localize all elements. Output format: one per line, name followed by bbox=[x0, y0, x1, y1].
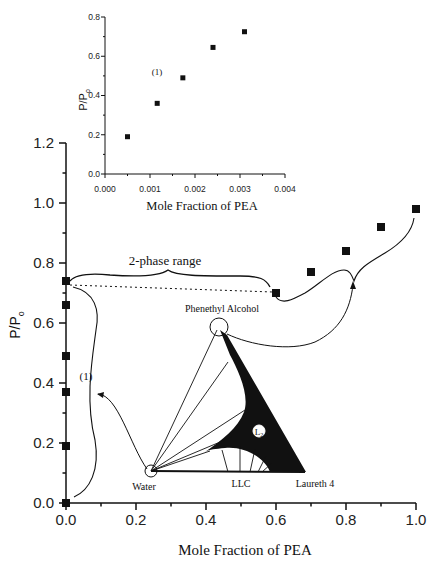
pea-vertex-label: Phenethyl Alcohol bbox=[185, 303, 259, 314]
y-tick-label: 1.2 bbox=[33, 134, 54, 151]
chart-canvas: 0.0000.0010.0020.0030.0040.00.20.40.60.8… bbox=[0, 0, 441, 570]
x-tick-label: 0.4 bbox=[196, 511, 217, 528]
main-x-axis-label: Mole Fraction of PEA bbox=[178, 542, 312, 558]
svg-text:P/Po: P/Po bbox=[7, 311, 26, 339]
inset-x-axis-label: Mole Fraction of PEA bbox=[146, 199, 257, 213]
high-pea-curve bbox=[276, 218, 414, 301]
inset-axes bbox=[101, 17, 285, 178]
laureth4-vertex-label: Laureth 4 bbox=[296, 478, 335, 489]
region-1-curve bbox=[73, 287, 97, 497]
y-tick-label: 0.0 bbox=[88, 169, 100, 179]
x-tick-label: 0.000 bbox=[94, 184, 116, 194]
arrowhead-icon bbox=[350, 281, 356, 289]
two-phase-brace bbox=[70, 270, 270, 287]
y-tick-label: 0.8 bbox=[88, 12, 100, 22]
inset-tick-labels: 0.0000.0010.0020.0030.0040.00.20.40.60.8 bbox=[88, 12, 296, 194]
x-tick-label: 0.003 bbox=[229, 184, 251, 194]
data-point-square bbox=[377, 223, 385, 231]
y-tick-label: 0.2 bbox=[88, 130, 100, 140]
main-y-axis-label: P/Po bbox=[7, 311, 26, 339]
main-region-1-label: (1) bbox=[80, 370, 93, 383]
y-tick-label: 0.8 bbox=[33, 254, 54, 271]
data-point-square bbox=[62, 499, 70, 507]
inset-region-1-label: (1) bbox=[152, 67, 163, 77]
inset-y-axis-label: P/Po bbox=[77, 89, 91, 111]
inset-data-points bbox=[125, 29, 247, 139]
l2-region bbox=[205, 330, 306, 472]
y-tick-label: 0.6 bbox=[33, 314, 54, 331]
x-tick-label: 0.2 bbox=[126, 511, 147, 528]
y-tick-label: 1.0 bbox=[33, 194, 54, 211]
data-point-square bbox=[155, 101, 160, 106]
data-point-square bbox=[62, 277, 70, 285]
arrowhead-icon bbox=[97, 392, 104, 398]
data-point-square bbox=[62, 388, 70, 396]
x-tick-label: 0.002 bbox=[184, 184, 206, 194]
two-phase-dotted-line bbox=[70, 285, 273, 292]
main-data-points bbox=[62, 205, 420, 507]
llc-label: LLC bbox=[232, 478, 251, 489]
data-point-square bbox=[180, 75, 185, 80]
x-tick-label: 0.004 bbox=[274, 184, 296, 194]
ternary-diagram: L2 Phenethyl Alcohol Water LLC Laureth 4 bbox=[132, 303, 334, 492]
data-point-square bbox=[62, 442, 70, 450]
data-point-square bbox=[62, 352, 70, 360]
x-tick-label: 1.0 bbox=[406, 511, 427, 528]
data-point-square bbox=[62, 301, 70, 309]
y-tick-label: 0.6 bbox=[88, 51, 100, 61]
x-tick-label: 0.8 bbox=[336, 511, 357, 528]
svg-text:P/Po: P/Po bbox=[77, 89, 91, 111]
data-point-square bbox=[242, 29, 247, 34]
data-point-square bbox=[125, 134, 130, 139]
data-point-square bbox=[211, 45, 216, 50]
pea-to-curve-arrow bbox=[227, 285, 353, 347]
y-tick-label: 0.0 bbox=[33, 494, 54, 511]
y-tick-label: 0.2 bbox=[33, 434, 54, 451]
x-tick-label: 0.6 bbox=[266, 511, 287, 528]
data-point-square bbox=[272, 289, 280, 297]
two-phase-label: 2-phase range bbox=[129, 253, 202, 268]
water-to-region1-arrow bbox=[98, 394, 147, 469]
pea-vertex-circle bbox=[210, 318, 228, 336]
x-tick-label: 0.0 bbox=[56, 511, 77, 528]
water-vertex-label: Water bbox=[132, 481, 156, 492]
y-tick-label: 0.4 bbox=[33, 374, 54, 391]
data-point-square bbox=[412, 205, 420, 213]
data-point-square bbox=[342, 247, 350, 255]
data-point-square bbox=[307, 268, 315, 276]
x-tick-label: 0.001 bbox=[139, 184, 161, 194]
